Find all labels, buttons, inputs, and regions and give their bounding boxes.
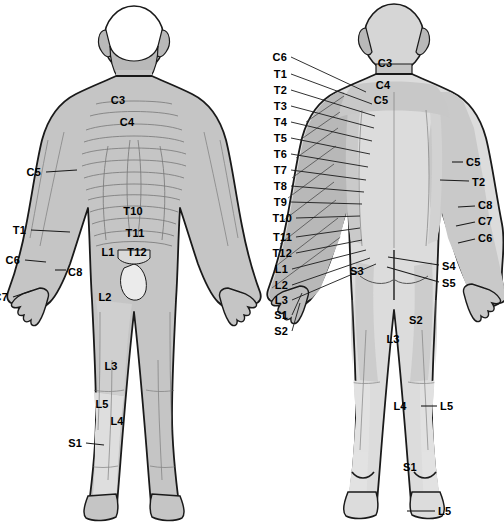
dermatome-label-front_figure-8-L2: L2 (98, 292, 111, 303)
dermatome-label-center-14-L2: L2 (275, 280, 288, 291)
dermatome-label-center-4-T4: T4 (274, 117, 287, 128)
dermatome-label-front_figure-11-L4: L4 (110, 416, 123, 427)
dermatome-label-center-2-T2: T2 (274, 85, 287, 96)
dermatome-label-center-10-T10: T10 (272, 213, 292, 224)
dermatome-label-center-8-T8: T8 (274, 181, 287, 192)
dermatome-label-center-6-T6: T6 (274, 149, 287, 160)
dermatome-label-center-12-T12: T12 (272, 248, 292, 259)
dermatome-label-front_figure-7-L1: L1 (101, 247, 114, 258)
dermatome-label-back_figure-17-L5: L5 (438, 506, 451, 517)
dermatome-label-front_figure-0-C3: C3 (111, 95, 125, 106)
dermatome-label-center-15-L3: L3 (275, 295, 288, 306)
dermatome-label-front_figure-3-T1: T1 (13, 225, 26, 236)
dermatome-label-back_figure-11-S5: S5 (442, 278, 456, 289)
dermatome-label-center-17-S2: S2 (274, 326, 288, 337)
dermatome-label-back_figure-1-C4: C4 (376, 80, 390, 91)
dermatome-label-front_figure-1-C4: C4 (120, 117, 134, 128)
dermatome-label-center-11-T11: T11 (273, 232, 292, 243)
dermatome-label-front_figure-13-C8: C8 (68, 267, 82, 278)
dermatome-label-front_figure-2-C5: C5 (27, 167, 41, 178)
dermatome-label-center-7-T7: T7 (274, 165, 287, 176)
dermatome-label-center-9-T9: T9 (274, 197, 287, 208)
dermatome-label-center-16-S1: S1 (274, 310, 288, 321)
dermatome-label-front_figure-4-T10: T10 (123, 206, 143, 217)
dermatome-label-center-0-C6: C6 (273, 52, 287, 63)
dermatome-diagram: C3C4C5T1T10T11T12L1L2L3L5L4C6C8C7S1 C6T1… (0, 0, 504, 531)
dermatome-label-front_figure-9-L3: L3 (104, 361, 117, 372)
dermatome-label-back_figure-7-C7: C7 (478, 216, 492, 227)
dermatome-label-center-1-T1: T1 (274, 69, 287, 80)
dermatome-label-front_figure-14-C7: C7 (0, 292, 8, 303)
front-figure-anterior (7, 6, 261, 521)
dermatome-label-center-5-T5: T5 (274, 133, 287, 144)
dermatome-label-back_figure-14-L4: L4 (393, 401, 406, 412)
dermatome-label-front_figure-6-T12: T12 (127, 247, 147, 258)
dermatome-label-back_figure-2-C5: C5 (374, 95, 388, 106)
dermatome-label-center-13-L1: L1 (275, 264, 288, 275)
dermatome-label-front_figure-10-L5: L5 (95, 399, 108, 410)
dermatome-label-back_figure-10-S4: S4 (442, 261, 456, 272)
dermatome-label-back_figure-13-L3: L3 (386, 334, 399, 345)
leader-center-C6 (291, 57, 366, 92)
dermatome-label-back_figure-3-C5: C5 (466, 157, 480, 168)
dermatome-label-back_figure-9-S3: S3 (350, 266, 364, 277)
dermatome-label-back_figure-8-C6: C6 (478, 233, 492, 244)
dermatome-label-back_figure-15-L5: L5 (440, 401, 453, 412)
dermatome-label-center-3-T3: T3 (274, 101, 287, 112)
dermatome-label-front_figure-15-S1: S1 (68, 438, 82, 449)
dermatome-label-back_figure-16-S1: S1 (403, 462, 417, 473)
dermatome-label-front_figure-12-C6: C6 (6, 255, 20, 266)
dermatome-label-back_figure-0-C3: C3 (378, 58, 392, 69)
dermatome-label-back_figure-12-S2: S2 (409, 315, 423, 326)
dermatome-label-back_figure-4-T2: T2 (472, 177, 485, 188)
dermatome-label-back_figure-6-C8: C8 (478, 200, 492, 211)
dermatome-label-front_figure-5-T11: T11 (126, 228, 145, 239)
